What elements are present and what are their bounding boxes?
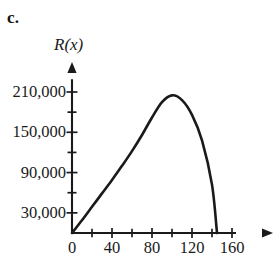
x-tick-label: 0: [68, 240, 76, 257]
y-axis-arrowhead: [67, 62, 76, 73]
x-tick-label: 160: [220, 240, 245, 257]
x-tick-label: 80: [144, 240, 161, 257]
y-tick-label: 210,000: [12, 84, 66, 101]
figure-panel: c. R(x) 30,00090,000150,000210,000 04080…: [0, 0, 280, 265]
y-tick-label: 30,000: [21, 205, 66, 222]
y-tick-label: 150,000: [12, 124, 66, 141]
x-tick-label: 120: [180, 240, 205, 257]
x-tick-label: 40: [104, 240, 121, 257]
axes-group: [67, 62, 273, 238]
revenue-curve: [72, 95, 217, 233]
curve-group: [72, 95, 217, 233]
x-axis-arrowhead: [262, 228, 273, 237]
y-tick-label: 90,000: [21, 165, 66, 182]
